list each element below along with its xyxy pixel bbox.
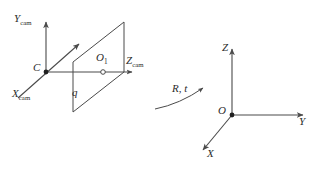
principal-point-label: O1 [96, 52, 108, 63]
camera-center-label: C [33, 62, 40, 73]
z-cam-axis-label: Zcam [126, 55, 144, 66]
image-point-label: q [72, 87, 78, 98]
camera-center-marker [44, 70, 49, 75]
y-cam-axis-label: Ycam [14, 13, 32, 24]
image-plane-quad [73, 22, 124, 112]
rigid-transform-label: R, t [172, 83, 187, 94]
world-origin-marker [230, 113, 235, 118]
figure-root: Ycam Xcam Zcam C O1 q R, t Z Y X O [0, 0, 316, 173]
y-world-axis-label: Y [299, 116, 305, 127]
x-world-axis-line [203, 115, 232, 150]
z-world-axis-label: Z [222, 42, 228, 53]
x-cam-axis-label: Xcam [12, 88, 30, 99]
x-world-axis-label: X [207, 148, 214, 159]
figure-canvas [0, 0, 316, 173]
principal-point-marker [101, 70, 106, 75]
world-origin-label: O [218, 105, 226, 116]
